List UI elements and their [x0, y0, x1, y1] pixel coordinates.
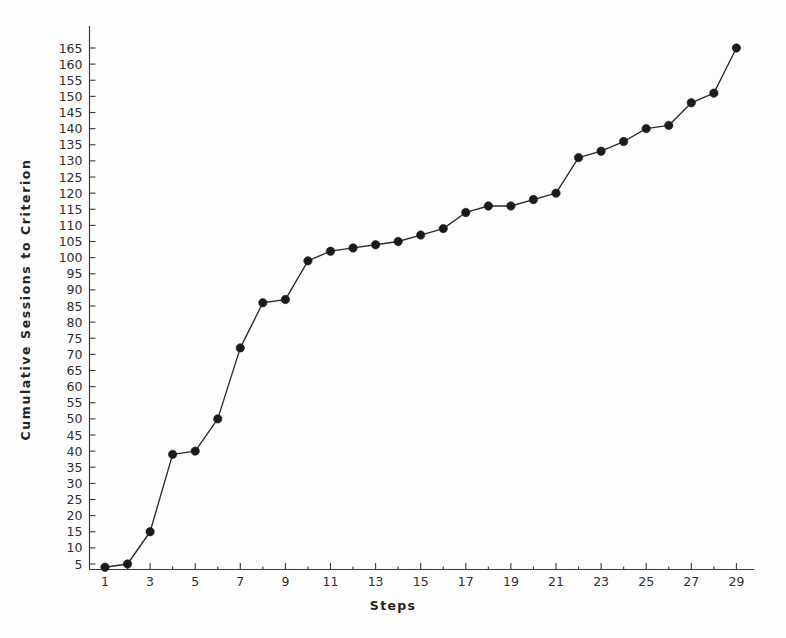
x-axis-tick-label: 17 — [458, 574, 474, 589]
data-point: Step 5: 40 — [191, 447, 199, 455]
line-chart-plot: 5101520253035404550556065707580859095100… — [0, 0, 786, 638]
x-axis-tick-label: 23 — [593, 574, 609, 589]
x-axis-tick-label: 1 — [101, 574, 109, 589]
y-axis-tick-label: 85 — [67, 299, 83, 314]
data-point: Step 3: 15 — [146, 528, 154, 536]
x-axis-tick-label: 15 — [413, 574, 429, 589]
data-point: Step 16: 109 — [439, 224, 447, 232]
y-axis-tick-label: 80 — [67, 315, 83, 330]
y-axis-tick-label: 115 — [59, 202, 83, 217]
y-axis-tick-label: 15 — [67, 524, 83, 539]
y-axis-tick-label: 165 — [59, 41, 83, 56]
data-point: Step 23: 133 — [597, 147, 605, 155]
data-point: Step 22: 131 — [574, 153, 582, 161]
y-axis-tick-label: 45 — [67, 428, 83, 443]
data-point: Step 24: 136 — [619, 137, 627, 145]
data-point: Step 25: 140 — [642, 124, 650, 132]
y-axis-tick-label: 155 — [59, 73, 83, 88]
chart-figure: Cumulative Sessions to Criterion 5101520… — [0, 0, 786, 638]
x-axis-tick-label: 9 — [281, 574, 289, 589]
y-axis-tick-label: 150 — [59, 89, 83, 104]
data-point: Step 6: 50 — [214, 415, 222, 423]
x-axis-tick-label: 5 — [191, 574, 199, 589]
y-axis-tick-label: 65 — [67, 363, 83, 378]
x-axis-tick-label: 27 — [683, 574, 699, 589]
y-axis-tick-label: 110 — [59, 218, 83, 233]
y-axis-tick-label: 25 — [67, 492, 83, 507]
y-axis-tick-label: 125 — [59, 170, 83, 185]
y-axis-tick-label: 60 — [67, 379, 83, 394]
data-series: Step 1: 4Step 2: 5Step 3: 15Step 4: 39St… — [101, 44, 741, 572]
y-axis-tick-label: 160 — [59, 57, 83, 72]
data-point: Step 7: 72 — [236, 344, 244, 352]
x-axis-tick-label: 19 — [503, 574, 519, 589]
data-point: Step 4: 39 — [168, 450, 176, 458]
y-axis-tick-label: 50 — [67, 411, 83, 426]
data-point: Step 26: 141 — [665, 121, 673, 129]
y-axis-tick-label: 145 — [59, 105, 83, 120]
data-point: Step 17: 114 — [462, 208, 470, 216]
data-point: Step 8: 86 — [259, 299, 267, 307]
y-axis-tick-label: 30 — [67, 476, 83, 491]
data-point: Step 28: 151 — [710, 89, 718, 97]
x-axis-tick-label: 13 — [368, 574, 384, 589]
data-point: Step 11: 102 — [326, 247, 334, 255]
y-axis: 5101520253035404550556065707580859095100… — [59, 26, 96, 572]
data-point: Step 27: 148 — [687, 99, 695, 107]
y-axis-tick-label: 130 — [59, 153, 83, 168]
x-axis-tick-label: 7 — [236, 574, 244, 589]
data-point: Step 12: 103 — [349, 244, 357, 252]
y-axis-tick-label: 70 — [67, 347, 83, 362]
data-point: Step 2: 5 — [123, 560, 131, 568]
y-axis-tick-label: 95 — [67, 266, 83, 281]
x-axis-tick-label: 29 — [728, 574, 744, 589]
data-point: Step 21: 120 — [552, 189, 560, 197]
x-axis: 1357911131517192123252729 — [90, 563, 755, 589]
y-axis-tick-label: 35 — [67, 460, 83, 475]
y-axis-tick-label: 40 — [67, 444, 83, 459]
y-axis-tick-label: 75 — [67, 331, 83, 346]
series-line — [105, 48, 736, 567]
data-point: Step 14: 105 — [394, 237, 402, 245]
y-axis-tick-label: 100 — [59, 250, 83, 265]
y-axis-tick-label: 135 — [59, 137, 83, 152]
x-axis-tick-label: 3 — [146, 574, 154, 589]
y-axis-tick-label: 90 — [67, 282, 83, 297]
data-point: Step 9: 87 — [281, 295, 289, 303]
x-axis-tick-label: 11 — [323, 574, 339, 589]
data-point: Step 19: 116 — [507, 202, 515, 210]
x-axis-title: Steps — [0, 598, 786, 613]
data-point: Step 1: 4 — [101, 563, 109, 571]
y-axis-tick-label: 20 — [67, 508, 83, 523]
x-axis-tick-label: 25 — [638, 574, 654, 589]
x-axis-tick-label: 21 — [548, 574, 564, 589]
data-point: Step 18: 116 — [484, 202, 492, 210]
data-point: Step 29: 165 — [732, 44, 740, 52]
y-axis-tick-label: 120 — [59, 186, 83, 201]
data-point: Step 20: 118 — [529, 195, 537, 203]
y-axis-tick-label: 10 — [67, 540, 83, 555]
data-point: Step 15: 107 — [417, 231, 425, 239]
y-axis-tick-label: 105 — [59, 234, 83, 249]
data-point: Step 10: 99 — [304, 257, 312, 265]
y-axis-tick-label: 5 — [75, 557, 83, 572]
y-axis-tick-label: 140 — [59, 121, 83, 136]
data-point: Step 13: 104 — [371, 241, 379, 249]
y-axis-tick-label: 55 — [67, 395, 83, 410]
